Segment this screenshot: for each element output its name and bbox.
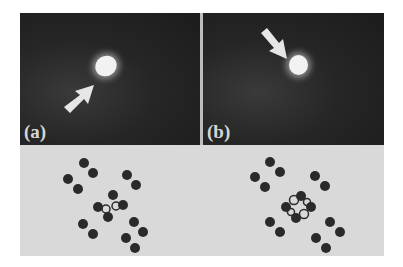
- figure-frame: (a) (b): [20, 13, 384, 256]
- stm-panel-b: (b): [203, 13, 384, 145]
- molecule-arrangement: [20, 145, 384, 256]
- arrow-icon: [257, 27, 293, 63]
- molecular-schematic: [20, 145, 384, 256]
- panel-label-b: (b): [207, 121, 230, 143]
- arrow-icon: [60, 77, 100, 113]
- panel-label-a: (a): [24, 121, 46, 143]
- bright-adsorbate-spot: [91, 52, 120, 80]
- stm-panel-a: (a): [20, 13, 200, 145]
